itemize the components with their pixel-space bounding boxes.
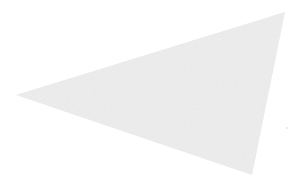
speckled-triangle [16,12,285,175]
stray-speck [286,127,288,129]
triangle-graphic [0,0,293,185]
speckled-triangle-canvas [0,0,293,185]
